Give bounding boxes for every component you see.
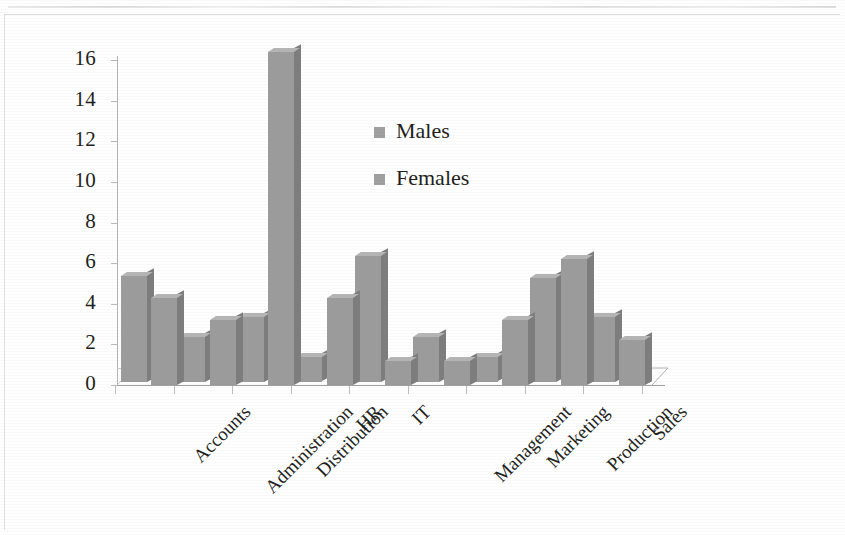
bar-sales-females: [619, 340, 645, 385]
bar-accounts-males: [121, 276, 147, 382]
legend-label-males: Males: [396, 118, 450, 144]
bar-administration-females: [210, 320, 236, 385]
x-axis-tick-mark: [408, 386, 409, 394]
bar-top-face: [151, 294, 183, 298]
bar-side-face: [294, 44, 301, 385]
bar-accounts-females: [151, 298, 177, 385]
bar-side-face: [528, 312, 535, 385]
bar-top-face: [210, 316, 242, 320]
legend-swatch-males: [374, 127, 385, 138]
bar-side-face: [645, 333, 652, 385]
x-axis-tick-mark: [115, 386, 116, 394]
legend-label-females: Females: [396, 165, 469, 191]
bar-group-container: [0, 0, 845, 535]
bar-hr-females: [327, 298, 353, 385]
x-axis-tick-mark: [232, 386, 233, 394]
bar-marketing-females: [502, 320, 528, 385]
bar-it-females: [385, 361, 411, 385]
bar-top-face: [561, 255, 593, 259]
x-axis-tick-mark: [466, 386, 467, 394]
bar-side-face: [236, 312, 243, 385]
bar-top-face: [385, 357, 417, 361]
bar-top-face: [444, 357, 476, 361]
x-axis-tick-mark: [583, 386, 584, 394]
x-axis-tick-mark: [291, 386, 292, 394]
bar-production-females: [561, 259, 587, 385]
bar-side-face: [353, 290, 360, 385]
bar-management-females: [444, 361, 470, 385]
bar-top-face: [327, 294, 359, 298]
x-axis-tick-mark: [349, 386, 350, 394]
bar-side-face: [587, 251, 594, 385]
bar-side-face: [177, 290, 184, 385]
x-axis-tick-mark: [525, 386, 526, 394]
legend-swatch-females: [374, 174, 385, 185]
x-axis-tick-mark: [174, 386, 175, 394]
x-axis-tick-mark: [642, 386, 643, 394]
bar-top-face: [355, 252, 387, 256]
bar-distribution-females: [268, 52, 294, 385]
bar-chart: 1614121086420 AccountsAdministrationDist…: [0, 0, 845, 535]
